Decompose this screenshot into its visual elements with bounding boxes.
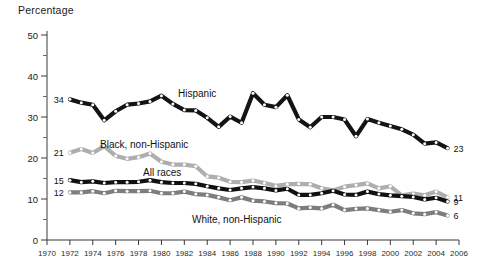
data-point-marker xyxy=(103,192,106,195)
data-point-marker xyxy=(126,157,129,160)
data-point-marker xyxy=(80,181,83,184)
data-point-marker xyxy=(160,181,163,184)
data-point-marker xyxy=(126,103,129,106)
data-point-marker xyxy=(366,182,369,185)
data-point-marker xyxy=(183,109,186,112)
data-point-marker xyxy=(160,94,163,97)
data-point-marker xyxy=(217,196,220,199)
data-point-marker xyxy=(423,142,426,145)
series-end-value-label: 9 xyxy=(454,197,459,207)
data-point-marker xyxy=(389,185,392,188)
data-point-marker xyxy=(412,192,415,195)
data-point-marker xyxy=(80,147,83,150)
data-point-marker xyxy=(435,211,438,214)
data-point-marker xyxy=(389,194,392,197)
chart-plot-area: 0102030405019701972197419761978198019821… xyxy=(0,0,479,261)
data-point-marker xyxy=(297,207,300,210)
data-point-marker xyxy=(286,183,289,186)
data-point-marker xyxy=(320,116,323,119)
data-point-marker xyxy=(343,209,346,212)
data-point-marker xyxy=(183,182,186,185)
data-point-marker xyxy=(103,119,106,122)
data-point-marker xyxy=(80,101,83,104)
x-tick-label: 2006 xyxy=(450,249,468,258)
data-point-marker xyxy=(435,190,438,193)
data-point-marker xyxy=(446,196,449,199)
data-point-marker xyxy=(366,118,369,121)
data-point-marker xyxy=(274,189,277,192)
series-start-value-label: 21 xyxy=(54,148,64,158)
data-point-marker xyxy=(91,152,94,155)
x-tick-label: 2004 xyxy=(427,249,445,258)
data-point-marker xyxy=(137,190,140,193)
data-point-marker xyxy=(114,189,117,192)
x-tick-label: 1972 xyxy=(61,249,79,258)
data-point-marker xyxy=(309,206,312,209)
series-name-label-2: Black, non-Hispanic xyxy=(100,139,188,150)
y-tick-label: 20 xyxy=(27,153,38,164)
x-tick-label: 1986 xyxy=(221,249,239,258)
data-point-marker xyxy=(377,193,380,196)
data-point-marker xyxy=(149,100,152,103)
data-point-marker xyxy=(194,182,197,185)
data-point-marker xyxy=(194,193,197,196)
data-point-marker xyxy=(91,103,94,106)
data-point-marker xyxy=(309,126,312,129)
data-point-marker xyxy=(206,175,209,178)
data-point-marker xyxy=(446,147,449,150)
data-point-marker xyxy=(263,103,266,106)
data-point-marker xyxy=(332,203,335,206)
data-point-marker xyxy=(126,181,129,184)
data-point-marker xyxy=(286,187,289,190)
x-tick-label: 2000 xyxy=(381,249,399,258)
data-point-marker xyxy=(400,209,403,212)
data-point-marker xyxy=(320,207,323,210)
data-point-marker xyxy=(206,185,209,188)
data-point-marker xyxy=(252,92,255,95)
data-point-marker xyxy=(297,118,300,121)
data-point-marker xyxy=(389,210,392,213)
data-point-marker xyxy=(68,191,71,194)
data-point-marker xyxy=(412,212,415,215)
data-point-marker xyxy=(206,193,209,196)
data-point-marker xyxy=(194,109,197,112)
data-point-marker xyxy=(309,193,312,196)
data-point-marker xyxy=(252,179,255,182)
x-tick-label: 1990 xyxy=(267,249,285,258)
data-point-marker xyxy=(149,179,152,182)
data-point-marker xyxy=(412,195,415,198)
data-point-marker xyxy=(171,182,174,185)
data-point-marker xyxy=(355,193,358,196)
data-point-marker xyxy=(423,194,426,197)
data-point-marker xyxy=(343,118,346,121)
data-point-marker xyxy=(320,192,323,195)
x-tick-label: 1970 xyxy=(38,249,56,258)
data-point-marker xyxy=(423,213,426,216)
data-point-marker xyxy=(240,196,243,199)
series-start-value-label: 12 xyxy=(54,188,64,198)
data-point-marker xyxy=(171,102,174,105)
data-point-marker xyxy=(183,190,186,193)
data-point-marker xyxy=(68,151,71,154)
series-name-label-4: White, non-Hispanic xyxy=(192,214,281,225)
data-point-marker xyxy=(355,207,358,210)
data-point-marker xyxy=(435,141,438,144)
data-point-marker xyxy=(137,156,140,159)
data-point-marker xyxy=(91,190,94,193)
data-point-marker xyxy=(286,94,289,97)
data-point-marker xyxy=(183,163,186,166)
series-start-value-label: 34 xyxy=(54,95,64,105)
data-point-marker xyxy=(137,102,140,105)
data-point-marker xyxy=(332,116,335,119)
line-chart: Percentage 01020304050197019721974197619… xyxy=(0,0,479,261)
x-tick-label: 1980 xyxy=(153,249,171,258)
data-point-marker xyxy=(286,202,289,205)
data-point-marker xyxy=(171,163,174,166)
data-point-marker xyxy=(309,183,312,186)
x-tick-label: 1988 xyxy=(244,249,262,258)
data-point-marker xyxy=(206,116,209,119)
data-point-marker xyxy=(446,200,449,203)
x-tick-label: 1974 xyxy=(84,249,102,258)
data-point-marker xyxy=(68,179,71,182)
y-tick-label: 30 xyxy=(27,112,38,123)
